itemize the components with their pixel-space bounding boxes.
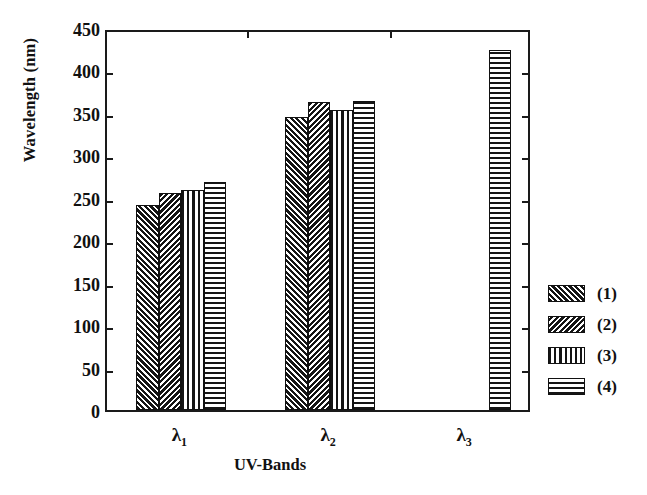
bar — [353, 101, 376, 410]
y-tick-label: 200 — [54, 233, 100, 251]
y-tick-mark-right — [522, 73, 529, 75]
y-tick-mark — [106, 328, 113, 330]
y-tick-label: 100 — [54, 318, 100, 336]
legend-swatch — [548, 347, 585, 364]
y-tick-label: 450 — [54, 21, 100, 39]
legend-label: (2) — [597, 316, 617, 333]
y-tick-mark-right — [522, 328, 529, 330]
bar — [308, 102, 331, 410]
y-tick-mark — [106, 243, 113, 245]
legend-label: (3) — [597, 347, 617, 364]
y-tick-mark-right — [522, 201, 529, 203]
y-tick-mark — [106, 73, 113, 75]
y-tick-mark-right — [522, 286, 529, 288]
legend-item: (2) — [548, 309, 643, 340]
bar — [181, 190, 204, 410]
legend-item: (3) — [548, 340, 643, 371]
legend-item: (1) — [548, 278, 643, 309]
x-axis-title: UV-Bands — [0, 455, 540, 475]
y-tick-label: 400 — [54, 63, 100, 81]
y-tick-mark — [106, 201, 113, 203]
legend-item: (4) — [548, 371, 643, 402]
legend-swatch — [548, 378, 585, 395]
y-tick-label: 350 — [54, 106, 100, 124]
bar — [159, 193, 182, 410]
chart-legend: (1)(2)(3)(4) — [548, 278, 643, 402]
plot-area — [105, 30, 530, 412]
x-category-label: λ2 — [320, 424, 335, 450]
bar — [489, 50, 512, 410]
legend-swatch — [548, 316, 585, 333]
y-axis-title-text: Wavelength (nm) — [20, 38, 40, 162]
y-tick-mark — [106, 116, 113, 118]
legend-swatch — [548, 285, 585, 302]
x-category-label: λ1 — [172, 424, 187, 450]
y-tick-label: 150 — [54, 276, 100, 294]
y-tick-mark-right — [522, 243, 529, 245]
x-tick-mark-top — [247, 31, 249, 38]
y-tick-mark-right — [522, 371, 529, 373]
y-tick-label: 300 — [54, 148, 100, 166]
x-category-label: λ3 — [456, 424, 471, 450]
y-tick-mark-right — [522, 116, 529, 118]
y-tick-label: 50 — [54, 361, 100, 379]
legend-label: (1) — [597, 285, 617, 302]
bar-group — [136, 32, 226, 410]
bar — [330, 110, 353, 411]
y-tick-label: 250 — [54, 191, 100, 209]
y-tick-mark — [106, 158, 113, 160]
bar — [136, 205, 159, 410]
bar — [204, 182, 227, 410]
bar — [285, 117, 308, 410]
y-axis-tick-labels: 050100150200250300350400450 — [50, 0, 100, 495]
y-axis-title: Wavelength (nm) — [6, 0, 26, 100]
legend-label: (4) — [597, 378, 617, 395]
y-tick-mark-right — [522, 158, 529, 160]
bar-group — [421, 32, 511, 410]
bar-group — [285, 32, 375, 410]
y-tick-mark — [106, 286, 113, 288]
x-tick-mark-top — [390, 31, 392, 38]
y-tick-mark — [106, 371, 113, 373]
chart-figure: Wavelength (nm) 050100150200250300350400… — [0, 0, 647, 495]
y-tick-label: 0 — [54, 403, 100, 421]
